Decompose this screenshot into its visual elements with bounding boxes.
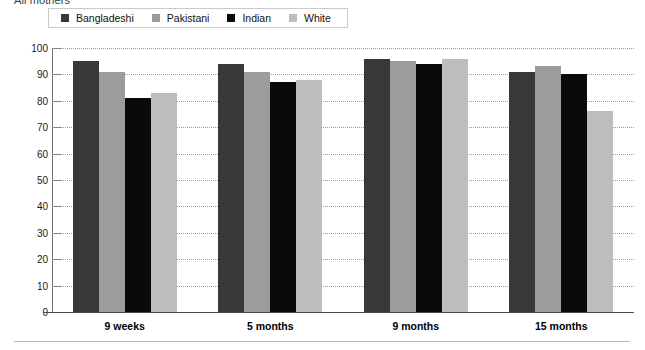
bar-group	[509, 48, 613, 312]
y-axis-tick-label: 10	[14, 280, 48, 291]
y-axis-tick-label: 70	[14, 122, 48, 133]
y-axis-tick-label: 60	[14, 148, 48, 159]
bar-group	[218, 48, 322, 312]
x-axis-line	[44, 312, 634, 313]
y-axis-tick-label: 90	[14, 69, 48, 80]
y-axis-tick-label: 30	[14, 227, 48, 238]
y-axis-tick-label: 50	[14, 175, 48, 186]
bar	[390, 61, 416, 312]
bar	[151, 93, 177, 312]
y-axis-tick-label: 80	[14, 95, 48, 106]
chart-plot-area: 0102030405060708090100 Percentage 9 week…	[0, 0, 645, 350]
y-axis-ticks: 0102030405060708090100	[10, 48, 48, 312]
y-axis-tick-label: 100	[14, 43, 48, 54]
bar	[218, 64, 244, 312]
bar	[296, 80, 322, 312]
footer-divider	[14, 341, 630, 342]
x-axis-label: 9 months	[343, 320, 489, 332]
bar	[535, 66, 561, 312]
x-axis-label: 9 weeks	[52, 320, 198, 332]
bars-layer	[52, 48, 634, 312]
bar	[73, 61, 99, 312]
bar	[587, 111, 613, 312]
bar-group	[364, 48, 468, 312]
bar	[364, 59, 390, 312]
bar	[416, 64, 442, 312]
bar	[509, 72, 535, 312]
x-axis-label: 15 months	[489, 320, 635, 332]
y-axis-tick-label: 0	[14, 307, 48, 318]
y-axis-tick-label: 20	[14, 254, 48, 265]
x-axis-label: 5 months	[198, 320, 344, 332]
bar	[99, 72, 125, 312]
bar	[442, 59, 468, 312]
bar	[125, 98, 151, 312]
bar	[244, 72, 270, 312]
bar	[270, 82, 296, 312]
y-axis-tick-label: 40	[14, 201, 48, 212]
bar-group	[73, 48, 177, 312]
bar	[561, 74, 587, 312]
